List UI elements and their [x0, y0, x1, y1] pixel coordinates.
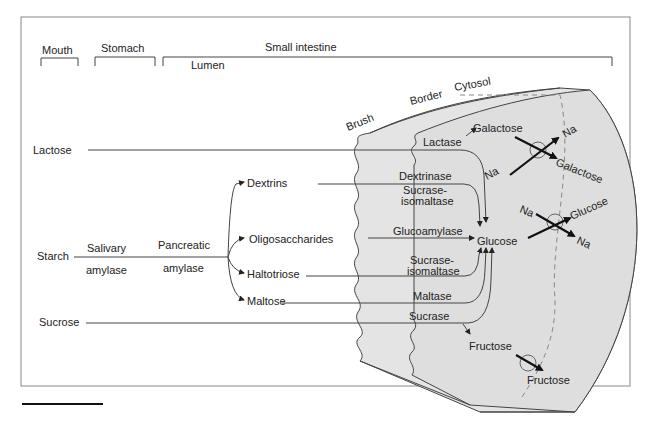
enzyme-pancreatic: Pancreatic [158, 239, 210, 251]
label-border: Border [409, 87, 444, 107]
product-fructose: Fructose [469, 340, 512, 352]
carbohydrate-digestion-diagram: Mouth Stomach Small intestine Lumen Brus… [0, 0, 653, 430]
region-stomach: Stomach [101, 42, 144, 54]
enzyme-salivary-amylase: amylase [86, 264, 127, 276]
intermediate-haltotriose: Haltotriose [247, 268, 300, 280]
enzyme-lactase: Lactase [423, 136, 462, 148]
transport-fructose-out: Fructose [527, 374, 570, 386]
intermediate-maltose: Maltose [247, 295, 286, 307]
intermediate-oligosaccharides: Oligosaccharides [249, 233, 334, 245]
enzyme-glucoamylase: Glucoamylase [393, 225, 463, 237]
region-brackets: Mouth Stomach Small intestine Lumen [41, 41, 612, 71]
region-small-intestine: Small intestine [265, 41, 337, 53]
product-galactose: Galactose [473, 122, 523, 134]
enzyme-salivary: Salivary [87, 242, 127, 254]
substrate-lactose: Lactose [33, 144, 72, 156]
enzyme-sucrase: Sucrase [409, 310, 449, 322]
product-glucose: Glucose [477, 235, 517, 247]
substrate-sucrose: Sucrose [39, 316, 79, 328]
enzyme-sucrase-isomaltase-1b: isomaltase [401, 195, 454, 207]
enzyme-sucrase-isomaltase-2b: isomaltase [407, 265, 460, 277]
intermediate-dextrins: Dextrins [247, 177, 288, 189]
region-mouth: Mouth [42, 44, 73, 56]
label-brush: Brush [344, 111, 375, 133]
enzyme-dextrinase: Dextrinase [399, 170, 452, 182]
substrate-starch: Starch [37, 250, 69, 262]
enzyme-maltase: Maltase [413, 290, 452, 302]
label-cytosol: Cytosol [453, 75, 491, 93]
region-lumen: Lumen [191, 59, 225, 71]
enzyme-pancreatic-amylase: amylase [163, 262, 204, 274]
